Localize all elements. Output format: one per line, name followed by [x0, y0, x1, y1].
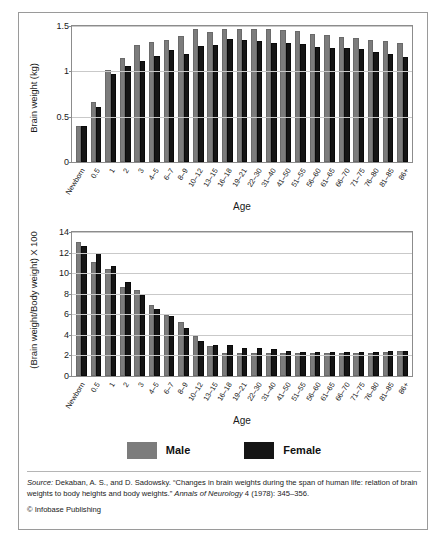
- bar-series-top: [72, 26, 412, 162]
- x-tick-label: 2: [122, 167, 131, 175]
- gridline: [72, 314, 412, 315]
- gridline: [72, 253, 412, 254]
- y-tick-label: 12: [59, 248, 69, 257]
- bar-group: [147, 26, 162, 162]
- bar-female: [213, 345, 218, 376]
- bar-female: [111, 266, 116, 376]
- x-tick-cell: 6–7: [161, 379, 176, 415]
- bar-female: [140, 61, 145, 162]
- y-tick-label: 4: [64, 330, 69, 339]
- x-tick-label: 86+: [397, 381, 410, 396]
- bar-group: [352, 232, 367, 376]
- x-tick-label: 81–85: [378, 381, 396, 403]
- y-tick-label: 14: [59, 228, 69, 237]
- bar-female: [257, 41, 262, 162]
- y-tick-label: 0.5: [56, 112, 69, 121]
- x-tick-label: Newborn: [65, 167, 87, 196]
- plot-frame-top: 00.511.5: [71, 25, 413, 163]
- x-tick-cell: Newborn: [73, 165, 88, 201]
- bar-series-bottom: [72, 232, 412, 376]
- bar-group: [352, 26, 367, 162]
- bar-group: [322, 26, 337, 162]
- bar-group: [293, 232, 308, 376]
- caption-line2-post: 4 (1978): 345–356.: [243, 489, 309, 498]
- x-tick-label: 4–5: [147, 167, 160, 182]
- bar-female: [81, 126, 86, 162]
- x-tick-label: 19–21: [231, 167, 249, 189]
- copyright-notice: © Infobase Publishing: [27, 505, 101, 514]
- bar-female: [227, 39, 232, 162]
- figure-frame: Brain weight (kg) 00.511.5 Newborn0.5123…: [18, 12, 428, 530]
- caption-divider: [27, 471, 421, 472]
- bar-group: [264, 232, 279, 376]
- x-tick-label: 76–80: [364, 381, 382, 403]
- bar-group: [74, 26, 89, 162]
- x-tick-cell: 2: [117, 379, 132, 415]
- y-tick-mark: [69, 26, 72, 27]
- y-tick-mark: [69, 273, 72, 274]
- bar-group: [249, 26, 264, 162]
- bar-group: [191, 232, 206, 376]
- bar-group: [395, 26, 410, 162]
- x-tick-label: 66–70: [334, 167, 352, 189]
- bar-female: [359, 49, 364, 162]
- y-tick-mark: [69, 355, 72, 356]
- y-tick-mark: [69, 314, 72, 315]
- plot-frame-bottom: 02468101214: [71, 231, 413, 377]
- x-tick-label: 31–40: [261, 167, 279, 189]
- gridline: [72, 232, 412, 233]
- bar-group: [381, 232, 396, 376]
- x-tick-label: 3: [137, 167, 146, 175]
- legend-label-female: Female: [283, 444, 321, 456]
- y-tick-label: 10: [59, 269, 69, 278]
- x-tick-cell: 1: [102, 379, 117, 415]
- figure-caption: Source: Dekaban, A. S., and D. Sadowsky.…: [27, 477, 421, 499]
- bar-group: [279, 232, 294, 376]
- bar-female: [344, 48, 349, 162]
- bar-group: [337, 232, 352, 376]
- bar-group: [293, 26, 308, 162]
- bar-group: [176, 232, 191, 376]
- x-tick-label: 4–5: [147, 381, 160, 396]
- bar-female: [271, 349, 276, 376]
- bar-female: [227, 345, 232, 376]
- caption-journal-name: Annals of Neurology: [174, 489, 242, 498]
- x-tick-label: 16–18: [216, 167, 234, 189]
- x-tick-label: 61–65: [319, 381, 337, 403]
- x-tick-label: 6–7: [162, 167, 175, 182]
- bar-female: [271, 43, 276, 162]
- bar-group: [264, 26, 279, 162]
- x-tick-label: 0.5: [90, 381, 102, 394]
- bar-female: [198, 46, 203, 162]
- y-tick-mark: [69, 162, 72, 163]
- x-tick-label: 66–70: [334, 381, 352, 403]
- x-tick-label: 51–55: [290, 381, 308, 403]
- x-tick-label: 6–7: [162, 381, 175, 396]
- x-tick-cell: 86+: [396, 379, 411, 415]
- x-tick-label: 81–85: [378, 167, 396, 189]
- x-tick-label: 16–18: [216, 381, 234, 403]
- bar-female: [373, 52, 378, 162]
- bar-group: [279, 26, 294, 162]
- bar-female: [242, 40, 247, 162]
- bar-group: [132, 26, 147, 162]
- x-tick-label: 1: [108, 167, 117, 175]
- y-tick-label: 1.5: [56, 22, 69, 31]
- x-tick-label: 3: [137, 381, 146, 389]
- y-tick-label: 8: [64, 289, 69, 298]
- y-axis-label-bottom: (Brain weight/Body weight) X 100: [27, 225, 41, 375]
- bar-female: [125, 66, 130, 162]
- x-tick-cell: 3: [132, 165, 147, 201]
- y-tick-label: 0: [64, 158, 69, 167]
- bar-female: [125, 282, 130, 376]
- x-axis-ticks-top: Newborn0.51234–56–78–910–1213–1516–1819–…: [71, 165, 413, 201]
- x-tick-label: 61–65: [319, 167, 337, 189]
- x-tick-cell: Newborn: [73, 379, 88, 415]
- bar-female: [154, 309, 159, 376]
- bar-group: [235, 232, 250, 376]
- bar-female: [169, 316, 174, 376]
- x-tick-label: Newborn: [65, 381, 87, 410]
- bar-female: [315, 47, 320, 162]
- y-tick-mark: [69, 253, 72, 254]
- bar-group: [147, 232, 162, 376]
